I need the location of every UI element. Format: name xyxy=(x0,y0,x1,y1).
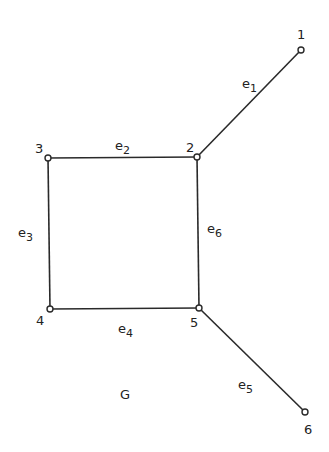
vertex-label-5: 5 xyxy=(190,315,198,330)
edge-e1 xyxy=(197,50,301,157)
vertex-label-1: 1 xyxy=(297,27,305,42)
nodes-group xyxy=(45,47,308,415)
edges-group xyxy=(48,50,305,412)
edge-e3 xyxy=(48,158,50,309)
edge-e6 xyxy=(197,157,199,308)
edge-label-e2: e2 xyxy=(115,138,130,157)
edge-e2 xyxy=(48,157,197,158)
vertex-label-2: 2 xyxy=(186,140,194,155)
edge-e4 xyxy=(50,308,199,309)
vertex-label-4: 4 xyxy=(36,313,44,328)
edge-label-e3: e3 xyxy=(18,225,33,244)
graph-svg: e1e2e3e4e5e6123456 G xyxy=(0,0,329,452)
vertex-1 xyxy=(298,47,304,53)
edge-label-e5: e5 xyxy=(238,377,253,396)
vertex-5 xyxy=(196,305,202,311)
vertex-2 xyxy=(194,154,200,160)
edge-label-e6: e6 xyxy=(207,221,222,240)
vertex-6 xyxy=(302,409,308,415)
vertex-3 xyxy=(45,155,51,161)
graph-name-label: G xyxy=(120,387,130,402)
graph-diagram: e1e2e3e4e5e6123456 G xyxy=(0,0,329,452)
edge-e5 xyxy=(199,308,305,412)
edge-label-e4: e4 xyxy=(118,321,133,340)
vertex-label-6: 6 xyxy=(304,422,312,437)
vertex-label-3: 3 xyxy=(35,141,43,156)
edge-label-e1: e1 xyxy=(242,76,257,95)
vertex-4 xyxy=(47,306,53,312)
